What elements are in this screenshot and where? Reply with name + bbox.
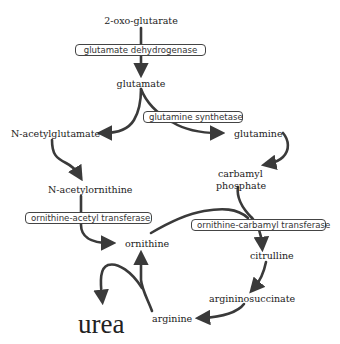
metabolite-citrulline: citrulline bbox=[250, 250, 294, 261]
metabolite-arginine: arginine bbox=[152, 313, 192, 324]
edge-glutamate-n-acetylglutamate bbox=[104, 89, 141, 133]
enzyme-glutamine-synthetase: glutamine synthetase bbox=[143, 111, 243, 123]
metabolite-carbamyl-phosphate-line2: phosphate bbox=[216, 180, 266, 191]
edge-arginine-urea bbox=[101, 264, 142, 298]
enzyme-ornithine-carbamyl-transferase: ornithine-carbamyl transferase bbox=[191, 219, 326, 231]
edge-argininosuccinate-arginine bbox=[202, 304, 244, 318]
metabolite-glutamine: glutamine bbox=[234, 128, 283, 139]
metabolite-urea: urea bbox=[78, 310, 124, 338]
metabolite-2-oxo-glutarate: 2-oxo-glutarate bbox=[104, 15, 178, 26]
metabolite-argininosuccinate: argininosuccinate bbox=[209, 293, 295, 304]
edge-n-acetylglutamate-n-acetylornithine bbox=[52, 140, 79, 175]
edge-arginine-ornithine bbox=[141, 257, 152, 311]
metabolite-ornithine: ornithine bbox=[125, 238, 169, 249]
metabolite-n-acetylornithine: N-acetylornithine bbox=[48, 184, 132, 195]
edge-citrulline-argininosuccinate bbox=[254, 262, 266, 288]
enzyme-glutamate-dehydrogenase: glutamate dehydrogenase bbox=[75, 44, 206, 56]
metabolite-carbamyl-phosphate-line1: carbamyl bbox=[218, 168, 263, 179]
urea-cycle-diagram: 2-oxo-glutarate glutamate N-acetylglutam… bbox=[0, 0, 340, 344]
enzyme-ornithine-acetyl-transferase: ornithine-acetyl transferase bbox=[25, 212, 152, 224]
metabolite-glutamate: glutamate bbox=[117, 78, 166, 89]
metabolite-n-acetylglutamate: N-acetylglutamate bbox=[11, 128, 100, 139]
